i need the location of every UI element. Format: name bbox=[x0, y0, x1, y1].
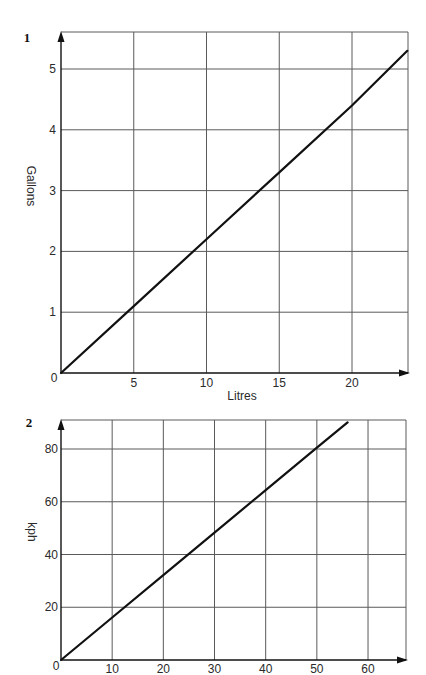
x-tick-label: 10 bbox=[200, 376, 214, 390]
y-axis-title: Gallons bbox=[24, 166, 38, 207]
x-tick-label: 15 bbox=[273, 376, 287, 390]
y-tick-label: 1 bbox=[49, 305, 56, 319]
y-tick-label: 80 bbox=[45, 442, 59, 456]
origin-tick-label: 0 bbox=[53, 659, 60, 673]
x-tick-label: 40 bbox=[259, 662, 273, 675]
chart-number: 2 bbox=[26, 415, 33, 430]
y-axis-title: kph bbox=[25, 522, 39, 541]
x-tick-label: 10 bbox=[105, 662, 119, 675]
chart-number: 1 bbox=[24, 30, 31, 45]
y-tick-label: 5 bbox=[49, 62, 56, 76]
x-tick-label: 60 bbox=[361, 662, 375, 675]
y-tick-label: 40 bbox=[45, 548, 59, 562]
y-tick-label: 2 bbox=[49, 244, 56, 258]
x-tick-label: 20 bbox=[157, 662, 171, 675]
x-tick-label: 30 bbox=[208, 662, 222, 675]
origin-tick-label: 0 bbox=[51, 371, 58, 385]
x-axis-title: Litres bbox=[227, 389, 256, 403]
y-tick-label: 3 bbox=[49, 184, 56, 198]
y-tick-label: 4 bbox=[49, 123, 56, 137]
y-tick-label: 60 bbox=[45, 495, 59, 509]
background bbox=[0, 0, 426, 675]
x-tick-label: 5 bbox=[130, 376, 137, 390]
x-tick-label: 20 bbox=[345, 376, 359, 390]
y-tick-label: 20 bbox=[45, 600, 59, 614]
x-tick-label: 50 bbox=[310, 662, 324, 675]
figure-canvas: 1 Gallons Litres 5101520123450 2 kph 102… bbox=[0, 0, 426, 675]
